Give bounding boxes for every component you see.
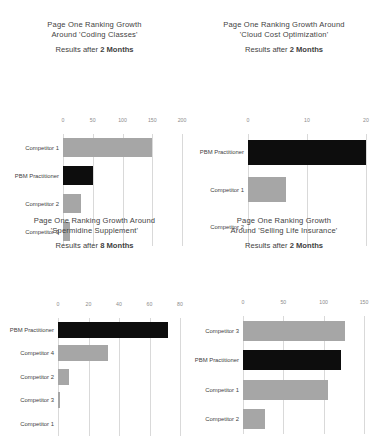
bar-track [58,389,180,413]
bar [248,177,286,202]
chart-subtitle-prefix: Results after [55,45,100,54]
x-tick-label: 80 [177,301,183,307]
chart-title: Page One Ranking Growth Around 'Selling … [189,216,379,235]
bar [63,166,93,185]
x-tick-label: 0 [247,117,250,123]
chart-title: Page One Ranking Growth Around 'Spermidi… [0,216,189,235]
category-label: PBM Practitioner [200,149,248,155]
category-label: PBM Practitioner [195,357,243,363]
bar [58,369,69,385]
plot-area: Competitor 3PBM PractitionerCompetitor 1… [243,316,364,434]
x-tick-label: 0 [57,301,60,307]
bar-row: Competitor 2 [58,365,180,389]
chart-subtitle-period: 8 Months [100,241,133,250]
x-tick-label: 60 [147,301,153,307]
category-label: PBM Practitioner [15,173,63,179]
plot-area: PBM PractitionerCompetitor 4Competitor 2… [58,318,180,436]
chart-subtitle-period: 2 Months [290,45,323,54]
chart-title: Page One Ranking Growth Around 'Cloud Co… [189,20,379,39]
x-tick-label: 20 [363,117,369,123]
x-axis: 020406080 [58,301,180,310]
x-tick-label: 20 [86,301,92,307]
bar-row: Competitor 1 [243,375,364,405]
category-label: Competitor 4 [20,350,58,356]
bar-row: Competitor 2 [243,404,364,434]
chart-panel-coding-classes: Page One Ranking Growth Around 'Coding C… [0,0,189,200]
chart-subtitle-prefix: Results after [245,241,290,250]
bar [243,321,345,341]
bar-track [63,134,182,162]
bar-row: PBM Practitioner [248,134,366,171]
chart-title-block: Page One Ranking Growth Around 'Spermidi… [0,200,189,251]
category-label: Competitor 2 [20,374,58,380]
bar [58,322,168,338]
bar [243,350,341,370]
bar-track [243,316,364,346]
chart-title: Page One Ranking Growth Around 'Coding C… [0,20,189,39]
category-label: Competitor 1 [205,387,243,393]
x-tick-label: 50 [280,299,286,305]
x-tick-label: 100 [118,117,127,123]
bar-row: PBM Practitioner [58,318,180,342]
chart-subtitle: Results after 2 Months [0,45,189,55]
gridline [364,316,365,434]
x-tick-label: 0 [62,117,65,123]
bar-track [243,345,364,375]
chart-title-block: Page One Ranking Growth Around 'Cloud Co… [189,0,379,55]
category-label: PBM Practitioner [10,327,58,333]
bar [248,140,366,165]
x-tick-label: 40 [116,301,122,307]
gridline [180,318,181,436]
x-tick-label: 100 [319,299,328,305]
chart-subtitle: Results after 8 Months [0,241,189,251]
x-tick-label: 0 [242,299,245,305]
chart-subtitle-prefix: Results after [55,241,100,250]
x-axis: 01020 [248,117,366,126]
chart-panel-selling-life-insurance: Page One Ranking Growth Around 'Selling … [189,200,379,400]
category-label: Competitor 2 [205,416,243,422]
chart-subtitle-prefix: Results after [245,45,290,54]
category-label: Competitor 3 [20,397,58,403]
bar-row: PBM Practitioner [63,162,182,190]
bar [243,380,328,400]
category-label: Competitor 1 [25,145,63,151]
chart-title-block: Page One Ranking Growth Around 'Selling … [189,200,379,251]
bar-track [58,365,180,389]
chart-subtitle-period: 2 Months [290,241,323,250]
x-axis: 050100150200 [63,117,182,126]
bar-track [248,134,366,171]
chart-panel-cloud-cost-optimization: Page One Ranking Growth Around 'Cloud Co… [189,0,379,200]
bar-track [243,404,364,434]
bar-row: PBM Practitioner [243,345,364,375]
bar-row: Competitor 3 [58,389,180,413]
bar-row: Competitor 1 [63,134,182,162]
bar-track [243,375,364,405]
bar [243,409,265,429]
chart-subtitle: Results after 2 Months [189,241,379,251]
category-label: Competitor 3 [205,328,243,334]
bar-track [63,162,182,190]
bar [58,392,60,408]
bar-row: Competitor 1 [58,412,180,436]
bar-row: Competitor 3 [243,316,364,346]
chart-panel-spermidine-supplement: Page One Ranking Growth Around 'Spermidi… [0,200,189,400]
chart-subtitle-period: 2 Months [100,45,133,54]
chart-title-block: Page One Ranking Growth Around 'Coding C… [0,0,189,55]
x-tick-label: 10 [304,117,310,123]
bar [63,138,152,157]
x-tick-label: 150 [148,117,157,123]
bar-row: Competitor 4 [58,341,180,365]
bar-track [58,318,180,342]
x-tick-label: 200 [178,117,187,123]
category-label: Competitor 1 [20,421,58,427]
bar-track [58,341,180,365]
bar [58,345,108,361]
x-tick-label: 150 [360,299,369,305]
bar-track [58,412,180,436]
x-tick-label: 50 [90,117,96,123]
x-axis: 050100150 [243,299,364,308]
category-label: Competitor 1 [210,187,248,193]
chart-subtitle: Results after 2 Months [189,45,379,55]
